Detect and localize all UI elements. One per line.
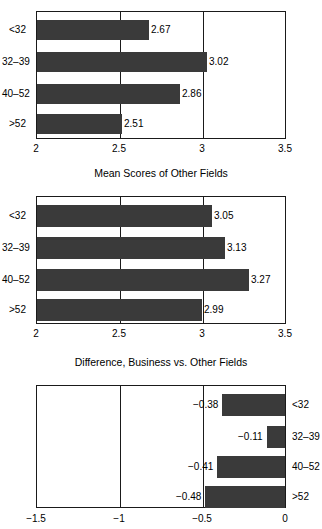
category-label-middle-3: >52 [9,305,26,315]
bar-value-middle-0: 3.05 [214,211,233,221]
category-label-middle-0: <32 [9,211,26,221]
xtick-label-middle-1: 2.5 [112,329,126,339]
xtick-label-bottom-3: 0 [282,514,288,524]
bar-value-bottom-2: −0.41 [188,462,213,472]
category-label-middle-1: 32–39 [2,243,30,253]
xtick-label-bottom-1: −1 [113,514,124,524]
bar-middle-1 [37,237,225,259]
bar-value-middle-3: 2.99 [204,305,223,315]
bar-value-middle-2: 3.27 [251,275,270,285]
gridline-3 [203,12,204,138]
bar-bottom-2 [217,456,285,478]
bar-value-bottom-0: −0.38 [193,400,218,410]
bar-value-top-3: 2.51 [124,119,143,129]
plot-area-bottom [36,385,286,508]
bar-value-bottom-1: −0.11 [238,432,263,442]
category-label-bottom-0: <32 [292,400,309,410]
bar-value-top-1: 3.02 [209,57,228,67]
plot-area-middle [36,196,286,324]
bar-value-middle-1: 3.13 [227,243,246,253]
category-label-top-0: <32 [9,25,26,35]
chart-top: 2.67 3.02 2.86 2.51 <32 32–39 40–52 >52 … [0,0,322,156]
xtick-label-bottom-2: −0.5 [192,514,212,524]
chart-middle: Mean Scores of Other Fields 3.05 3.13 3.… [0,163,322,341]
bar-value-top-2: 2.86 [182,89,201,99]
bar-middle-0 [37,205,212,227]
category-label-top-1: 32–39 [2,57,30,67]
category-label-bottom-3: >52 [292,492,309,502]
category-label-top-3: >52 [9,119,26,129]
category-label-bottom-1: 32–39 [292,432,320,442]
bar-value-bottom-3: −0.48 [176,492,201,502]
bar-middle-2 [37,269,249,291]
bar-bottom-3 [205,486,285,508]
bar-top-0 [37,20,149,40]
xtick-label-top-1: 2.5 [112,144,126,154]
chart-title-bottom: Difference, Business vs. Other Fields [0,356,322,369]
chart-bottom: Difference, Business vs. Other Fields −0… [0,352,322,529]
gridline-minus-1 [120,386,121,507]
xtick-label-top-2: 3 [199,144,205,154]
bar-value-top-0: 2.67 [151,25,170,35]
bar-top-1 [37,52,207,72]
category-label-top-2: 40–52 [2,89,30,99]
xtick-label-middle-0: 2 [33,329,39,339]
xtick-label-top-3: 3.5 [278,144,292,154]
xtick-label-middle-2: 3 [199,329,205,339]
xtick-label-top-0: 2 [33,144,39,154]
xtick-label-bottom-0: −1.5 [26,514,46,524]
bar-bottom-1 [267,426,285,448]
bar-top-3 [37,114,122,134]
xtick-label-middle-3: 3.5 [278,329,292,339]
chart-title-middle: Mean Scores of Other Fields [0,167,322,180]
category-label-middle-2: 40–52 [2,275,30,285]
category-label-bottom-2: 40–52 [292,462,320,472]
bar-top-2 [37,84,180,104]
bar-bottom-0 [222,394,285,416]
bar-middle-3 [37,299,202,321]
